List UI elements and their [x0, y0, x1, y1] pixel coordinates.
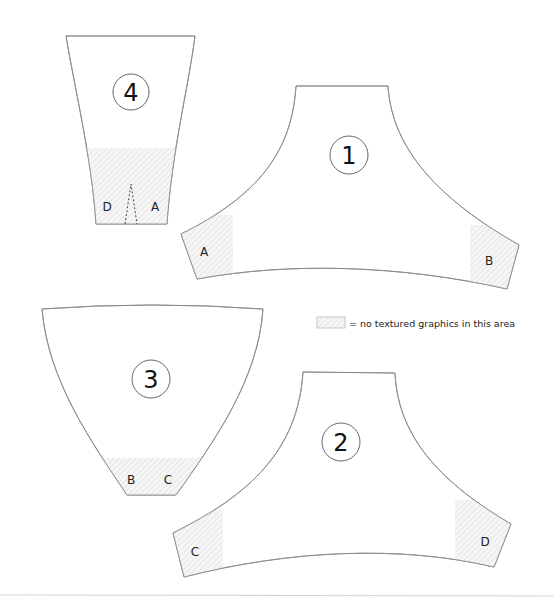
pattern-piece-1: 1 A B: [175, 86, 525, 295]
corner-label-a: A: [151, 200, 160, 214]
no-texture-zone: [90, 458, 210, 498]
piece-number-badge: 4: [113, 74, 149, 110]
piece-number-badge: 2: [322, 423, 360, 461]
piece-number-badge: 1: [330, 136, 368, 174]
bottom-divider: [0, 595, 554, 596]
corner-label-a: A: [200, 245, 209, 259]
corner-label-c: C: [191, 545, 199, 559]
piece-number: 3: [143, 366, 158, 394]
corner-label-d: D: [102, 200, 111, 214]
corner-label-d: D: [480, 535, 489, 549]
legend-text: = no textured graphics in this area: [349, 318, 515, 329]
corner-label-b: B: [485, 254, 493, 268]
no-texture-zone: [470, 225, 525, 295]
pattern-piece-4: 4 D A: [60, 36, 200, 228]
piece-number: 2: [333, 429, 348, 457]
pattern-piece-3: 3 B C: [42, 305, 263, 498]
piece-number: 4: [123, 79, 138, 107]
piece-number: 1: [341, 142, 356, 170]
corner-label-b: B: [127, 473, 135, 487]
legend-hatch-swatch: [317, 317, 345, 328]
pattern-diagram: 4 D A 1 A B = no textured graphics in th…: [0, 0, 554, 613]
corner-label-c: C: [164, 473, 172, 487]
piece-number-badge: 3: [132, 360, 170, 398]
legend: = no textured graphics in this area: [317, 317, 515, 329]
